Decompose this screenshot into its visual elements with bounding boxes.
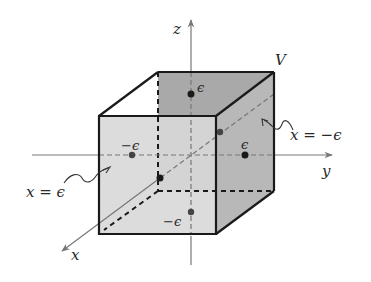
front-face-label: x = ϵ	[26, 183, 66, 201]
z-axis-label: z	[172, 20, 181, 38]
point-back	[217, 129, 223, 135]
point-front	[157, 175, 164, 182]
back-face-label: x = −ϵ	[290, 126, 342, 144]
y-axis-label: y	[321, 162, 331, 180]
point-bottom	[188, 209, 194, 215]
point-right-label: ϵ	[241, 137, 249, 152]
cube-diagram: z y x V x = ϵ x = −ϵ ϵ −ϵ −ϵ ϵ	[0, 0, 371, 282]
point-bottom-label: −ϵ	[163, 214, 182, 229]
point-left-label: −ϵ	[121, 138, 140, 153]
x-axis-label: x	[71, 246, 80, 264]
point-top-label: ϵ	[197, 80, 205, 95]
point-top	[188, 91, 195, 98]
point-right	[242, 152, 249, 159]
volume-label: V	[275, 51, 288, 69]
